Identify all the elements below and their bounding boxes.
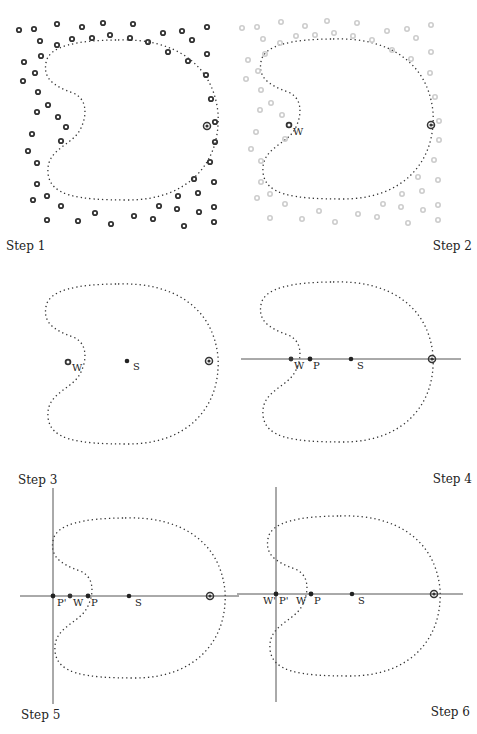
label-p: P [314, 595, 321, 606]
point-p [309, 592, 314, 597]
panel-step-4: W P S Step 4 [241, 282, 472, 486]
label-p-prime: P' [57, 597, 66, 608]
caption-step-4: Step 4 [433, 472, 473, 486]
label-s: S [133, 361, 140, 372]
label-p: P [313, 360, 320, 371]
panel-step-6: W' P' W P S Step 6 [237, 487, 470, 719]
step-diagram: Step 1 W Step 2 [0, 0, 477, 734]
label-w: W [296, 595, 307, 606]
label-s: S [135, 597, 142, 608]
label-w: W [72, 362, 83, 373]
caption-step-2: Step 2 [433, 239, 472, 253]
kidney-boundary [267, 516, 440, 676]
faded-sample-points [240, 19, 441, 225]
caption-step-5: Step 5 [21, 708, 60, 722]
point-p [308, 357, 313, 362]
panel-step-2: W Step 2 [240, 19, 472, 253]
kidney-boundary [45, 40, 218, 200]
point-s [349, 357, 354, 362]
caption-step-3: Step 3 [18, 473, 57, 487]
kidney-boundary [260, 282, 433, 442]
start-point [204, 123, 211, 130]
point-w [66, 360, 71, 365]
caption-step-1: Step 1 [6, 239, 45, 253]
label-s: S [357, 360, 364, 371]
kidney-boundary [260, 39, 433, 199]
point-p [86, 594, 91, 599]
point-s [350, 592, 355, 597]
point-w [68, 594, 73, 599]
panel-step-3: W S Step 3 [18, 284, 218, 487]
label-w: W [73, 597, 84, 608]
caption-step-6: Step 6 [431, 705, 470, 719]
start-point [206, 358, 213, 365]
point-s [127, 594, 132, 599]
label-w: W [294, 360, 305, 371]
panel-step-5: P' W P S Step 5 [20, 488, 239, 722]
sample-points [17, 21, 217, 228]
point-w [289, 357, 294, 362]
point-p-prime [51, 594, 56, 599]
point-w [287, 123, 292, 128]
point-p-prime [274, 592, 279, 597]
label-s: S [358, 595, 365, 606]
label-w: W [293, 126, 304, 137]
point-s [125, 359, 130, 364]
label-p: P [91, 597, 98, 608]
label-w-prime: W' [263, 595, 276, 606]
panel-step-1: Step 1 [6, 21, 218, 253]
label-p-prime: P' [279, 595, 288, 606]
